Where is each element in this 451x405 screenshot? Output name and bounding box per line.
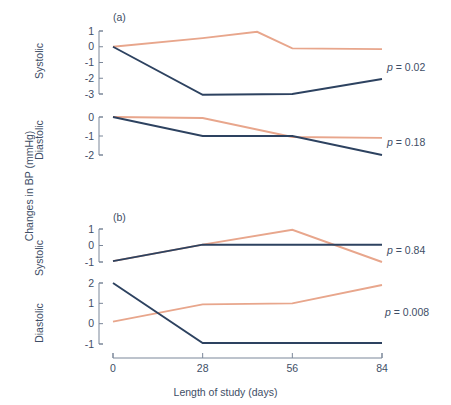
series-light-a-diastolic (113, 117, 382, 138)
y-ticklabel-b-systolic-0: 1 (88, 223, 94, 235)
x-ticklabel-0: 0 (110, 362, 116, 374)
y-ticklabel-b-diastolic-3: -1 (85, 338, 94, 350)
y-ticklabel-b-systolic-1: 0 (88, 239, 94, 251)
y-ticklabel-a-systolic-0: 1 (88, 25, 94, 37)
y-ticklabel-b-systolic-2: -1 (85, 256, 94, 268)
y-ticklabel-a-systolic-4: -3 (85, 88, 94, 100)
y-ticklabel-a-systolic-2: -1 (85, 56, 94, 68)
series-light-b-diastolic (113, 285, 382, 322)
x-ticklabel-2: 56 (286, 362, 298, 374)
y-ticklabel-a-systolic-3: -2 (85, 72, 94, 84)
y-ticklabel-a-diastolic-1: -1 (85, 130, 94, 142)
y-ticklabel-a-diastolic-0: 0 (88, 111, 94, 123)
y-axis-b-diastolic (99, 283, 103, 344)
x-ticklabel-1: 28 (197, 362, 209, 374)
y-ticklabel-b-diastolic-1: 1 (88, 297, 94, 309)
x-axis (113, 353, 382, 358)
y-ticklabel-b-diastolic-2: 0 (88, 317, 94, 329)
y-ticklabel-b-diastolic-0: 2 (88, 277, 94, 289)
series-dark-a-diastolic (113, 117, 382, 155)
y-ticklabel-a-systolic-1: 0 (88, 40, 94, 52)
x-ticklabel-3: 84 (376, 362, 388, 374)
series-light-a-systolic (113, 32, 382, 49)
figure-root: Changes in BP (mmHg) (a) (b) Systolic Di… (0, 0, 451, 405)
plot-canvas: 10-1-2-30-1-210-1210-10285684 (0, 0, 451, 405)
series-dark-a-systolic (113, 47, 382, 95)
y-ticklabel-a-diastolic-2: -2 (85, 149, 94, 161)
series-light-b-systolic (113, 230, 382, 262)
